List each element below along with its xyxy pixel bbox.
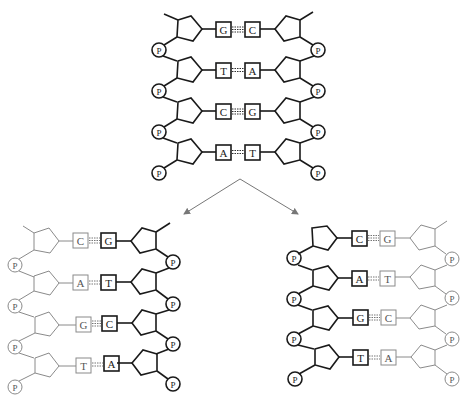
phosphate-label: P [170, 340, 175, 350]
phosphate-label: P [12, 343, 17, 353]
phosphate-label: P [449, 294, 454, 304]
phosphate-label: P [449, 375, 454, 385]
daughter-right-double-helix [287, 221, 459, 386]
sugar-pentagon-icon [177, 98, 202, 123]
phosphate-label: P [156, 46, 161, 56]
daughter-left-labels: C A G T G T C A P P P P P P P P [12, 235, 175, 393]
base-label: G [357, 312, 365, 324]
phosphate-label: P [291, 254, 296, 264]
base-label: C [385, 312, 392, 324]
phosphate-label: P [449, 335, 454, 345]
parent-double-helix [152, 12, 325, 180]
arrow-left-icon [184, 179, 240, 214]
sugar-pentagon-icon [275, 57, 300, 82]
phosphate-label: P [315, 169, 320, 179]
phosphate-label: P [12, 302, 17, 312]
base-label: T [249, 147, 256, 159]
replication-arrows [184, 179, 298, 214]
base-label: G [249, 106, 257, 118]
base-label: C [106, 318, 113, 330]
base-label: T [105, 277, 112, 289]
sugar-pentagon-icon [275, 98, 300, 123]
phosphate-label: P [291, 295, 296, 305]
sugar-pentagon-icon [177, 16, 202, 41]
base-label: A [385, 352, 393, 364]
base-label: A [108, 358, 116, 370]
base-label: C [356, 233, 363, 245]
phosphate-label: P [170, 258, 175, 268]
dna-replication-diagram: G C T A C G A T P P P P P P P P [0, 0, 471, 395]
base-label: T [220, 65, 227, 77]
base-label: A [249, 65, 257, 77]
base-label: G [220, 24, 228, 36]
base-label: T [80, 360, 87, 372]
daughter-left-double-helix [8, 223, 180, 394]
base-label: C [77, 235, 84, 247]
base-label: G [105, 235, 113, 247]
sugar-pentagon-icon [177, 57, 202, 82]
phosphate-label: P [12, 383, 17, 393]
phosphate-label: P [315, 46, 320, 56]
phosphate-label: P [291, 335, 296, 345]
phosphate-label: P [449, 255, 454, 265]
phosphate-label: P [156, 169, 161, 179]
base-label: A [220, 147, 228, 159]
phosphate-label: P [170, 300, 175, 310]
sugar-pentagon-icon [177, 139, 202, 164]
base-label: C [249, 24, 256, 36]
base-label: A [356, 273, 364, 285]
phosphate-label: P [170, 380, 175, 390]
base-label: C [220, 106, 227, 118]
base-label: T [357, 352, 364, 364]
base-label: G [384, 233, 392, 245]
daughter-right-old-strand [287, 226, 368, 386]
parent-left-strand [152, 14, 216, 180]
phosphate-label: P [12, 261, 17, 271]
base-label: T [384, 273, 391, 285]
base-label: A [77, 277, 85, 289]
sugar-pentagon-icon [275, 139, 300, 164]
arrow-right-icon [240, 179, 298, 214]
phosphate-label: P [315, 128, 320, 138]
phosphate-label: P [292, 375, 297, 385]
phosphate-label: P [156, 87, 161, 97]
daughter-left-new-strand [8, 226, 91, 394]
sugar-pentagon-icon [275, 16, 300, 41]
phosphate-label: P [315, 87, 320, 97]
base-label: G [80, 319, 88, 331]
phosphate-label: P [156, 128, 161, 138]
